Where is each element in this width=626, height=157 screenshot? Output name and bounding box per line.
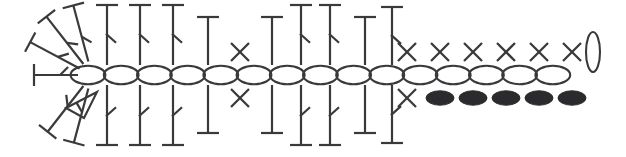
double-crochet-symbol xyxy=(319,85,341,145)
half-double-crochet-symbol xyxy=(354,85,376,133)
double-crochet-symbol xyxy=(96,5,118,65)
stitch-stem xyxy=(30,42,79,68)
stitch-top-bar xyxy=(39,125,56,139)
chain-stitch-oval xyxy=(436,66,471,84)
single-crochet-x xyxy=(398,43,416,61)
half-double-crochet-symbol xyxy=(354,17,376,65)
single-crochet-x xyxy=(464,43,482,61)
slip-stitch-oval-filled xyxy=(426,91,454,105)
chain-stitch-oval xyxy=(203,66,238,84)
chain-stitch-oval xyxy=(237,66,272,84)
half-double-crochet-symbol xyxy=(197,17,219,65)
half-double-crochet-symbol xyxy=(197,85,219,133)
chain-stitch-oval xyxy=(502,66,537,84)
stitch-top-bar xyxy=(38,10,55,24)
chain-stitch-oval xyxy=(137,66,172,84)
slip-stitch-oval-filled xyxy=(525,91,553,105)
stitch-top-bar xyxy=(25,32,35,51)
chain-stitch-row xyxy=(71,66,571,84)
single-crochet-x xyxy=(530,43,548,61)
double-crochet-symbol xyxy=(162,85,184,145)
end-chain-oval xyxy=(586,32,600,72)
slip-stitch-row xyxy=(426,91,586,105)
double-crochet-tick xyxy=(60,67,68,75)
double-crochet-left xyxy=(34,64,78,86)
single-crochet-x xyxy=(497,43,515,61)
double-crochet-tick xyxy=(76,102,82,112)
chain-stitch-oval xyxy=(170,66,205,84)
single-crochet-row-top xyxy=(398,43,581,61)
double-crochet-up-slant xyxy=(63,3,92,62)
chain-stitch-oval xyxy=(270,66,305,84)
double-crochet-symbol xyxy=(290,85,312,145)
single-crochet-x xyxy=(563,43,581,61)
double-crochet-symbol xyxy=(381,7,403,65)
chain-stitch-oval xyxy=(535,66,570,84)
chain-stitch-oval xyxy=(104,66,139,84)
double-crochet-symbol xyxy=(290,5,312,65)
double-crochet-symbol xyxy=(162,5,184,65)
chain-stitch-oval xyxy=(403,66,438,84)
double-crochet-symbol xyxy=(129,85,151,145)
single-crochet-x xyxy=(431,43,449,61)
double-crochet-symbol xyxy=(319,5,341,65)
double-crochet-tick xyxy=(58,54,69,57)
crochet-diagram-svg xyxy=(0,0,626,157)
slip-stitch-oval-filled xyxy=(459,91,487,105)
chain-stitch-oval xyxy=(336,66,371,84)
top-stitch-row xyxy=(96,5,403,65)
chain-stitch-oval xyxy=(469,66,504,84)
bottom-stitch-row xyxy=(96,85,403,145)
half-double-crochet-symbol xyxy=(261,17,283,65)
single-crochet-row-bottom xyxy=(398,89,416,107)
double-crochet-symbol xyxy=(96,85,118,145)
chain-stitch-oval xyxy=(303,66,338,84)
double-crochet-tick xyxy=(67,43,78,44)
slip-stitch-oval-filled xyxy=(492,91,520,105)
single-crochet-x xyxy=(398,89,416,107)
chain-stitch-oval xyxy=(369,66,404,84)
crochet-chart-canvas xyxy=(0,0,626,157)
half-double-crochet-symbol xyxy=(261,85,283,133)
single-crochet-x xyxy=(231,43,249,61)
double-crochet-symbol xyxy=(381,85,403,143)
double-crochet-tick xyxy=(66,95,67,106)
double-crochet-symbol xyxy=(129,5,151,65)
single-crochet-x xyxy=(231,89,249,107)
slip-stitch-oval-filled xyxy=(558,91,586,105)
left-fan-cluster xyxy=(25,3,97,146)
